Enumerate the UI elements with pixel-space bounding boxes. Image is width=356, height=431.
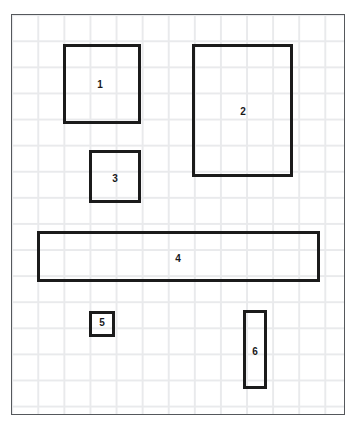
rect-5-label: 5: [99, 318, 105, 328]
rect-6-label: 6: [252, 347, 258, 357]
rect-3-label: 3: [112, 174, 118, 184]
rect-4-label: 4: [175, 254, 181, 264]
diagram-canvas: 123456: [0, 0, 356, 431]
rect-1-label: 1: [97, 80, 103, 90]
grid-plate: [11, 14, 345, 415]
rect-2-label: 2: [240, 107, 246, 117]
